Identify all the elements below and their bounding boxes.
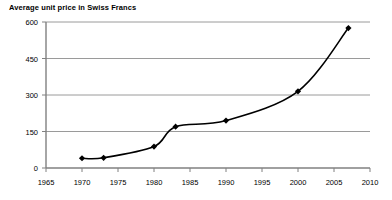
x-tick-label: 1980: [146, 178, 163, 187]
x-tick-label: 2000: [290, 178, 307, 187]
x-tick-label: 1975: [110, 178, 127, 187]
data-point-marker: [151, 143, 157, 149]
x-tick-label: 1990: [218, 178, 235, 187]
data-point-marker: [79, 155, 85, 161]
gridlines: [46, 22, 370, 132]
y-tick-labels: 600 450 300 150 0: [25, 18, 38, 173]
x-tick-label: 2005: [326, 178, 343, 187]
x-tick-label: 2010: [362, 178, 379, 187]
data-point-marker: [101, 155, 107, 161]
chart-container: Average unit price in Swiss Francs: [0, 0, 392, 200]
y-tick-label: 300: [25, 91, 38, 100]
x-tick-label: 1970: [74, 178, 91, 187]
x-tick-labels: 1965 1970 1975 1980 1985 1990 1995 2000 …: [38, 178, 379, 187]
x-tick-label: 1995: [254, 178, 271, 187]
y-tick-label: 600: [25, 18, 38, 27]
y-tick-label: 150: [25, 128, 38, 137]
x-tick-label: 1985: [182, 178, 199, 187]
series-line: [82, 28, 348, 159]
data-point-marker: [223, 117, 229, 123]
y-tick-label: 0: [34, 164, 38, 173]
y-tick-label: 450: [25, 55, 38, 64]
chart-svg: 600 450 300 150 0 1965 1970 1975 1980 19…: [0, 0, 392, 200]
series-markers: [79, 25, 352, 161]
data-point-marker: [173, 124, 179, 130]
x-tick-label: 1965: [38, 178, 55, 187]
